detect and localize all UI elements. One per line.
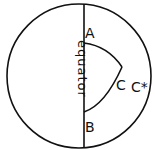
point-c-label: C [116, 77, 126, 93]
diagram-canvas: equator A B C C* [0, 0, 155, 150]
equator-label: equator [75, 40, 90, 98]
point-b-label: B [85, 119, 95, 135]
point-a-label: A [85, 25, 95, 41]
point-c-star-label: C* [131, 79, 148, 95]
